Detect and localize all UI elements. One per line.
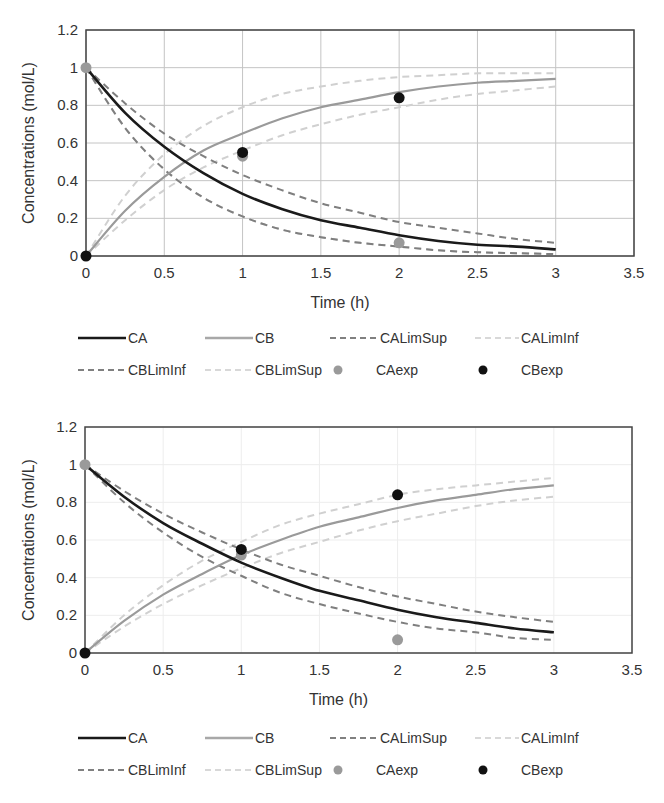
- legend-line-icon: [330, 330, 378, 346]
- chart-top-legend: CACBCALimSupCALimInfCBLimInfCBLimSupCAex…: [0, 330, 664, 400]
- x-tick-label: 1: [237, 661, 245, 678]
- x-tick-label: 0: [82, 264, 90, 281]
- x-axis-title: Time (h): [309, 691, 368, 708]
- legend-label: CALimSup: [380, 330, 447, 346]
- legend-label: CBLimInf: [128, 762, 186, 778]
- marker-cbexp: [236, 544, 247, 555]
- legend-item-caliminf: CALimInf: [475, 330, 579, 346]
- legend-label: CBexp: [521, 362, 563, 378]
- legend-item-cblimsup: CBLimSup: [205, 762, 322, 778]
- x-tick-label: 2: [393, 661, 401, 678]
- legend-label: CALimInf: [521, 730, 579, 746]
- marker-cbexp: [237, 147, 248, 158]
- y-tick-label: 1.2: [56, 418, 77, 435]
- legend-line-icon: [78, 730, 126, 746]
- marker-cbexp: [394, 92, 405, 103]
- x-tick-label: 2: [395, 264, 403, 281]
- legend-item-caexp: CAexp: [330, 362, 418, 378]
- y-tick-label: 0.8: [57, 96, 78, 113]
- legend-item-cbliminf: CBLimInf: [78, 362, 186, 378]
- x-tick-label: 0.5: [153, 661, 174, 678]
- legend-item-cbexp: CBexp: [475, 362, 563, 378]
- y-tick-label: 1: [69, 456, 77, 473]
- legend-line-icon: [330, 730, 378, 746]
- legend-line-icon: [205, 330, 253, 346]
- y-tick-label: 0.8: [56, 493, 77, 510]
- legend-item-ca: CA: [78, 330, 147, 346]
- legend-label: CAexp: [376, 362, 418, 378]
- marker-caexp: [392, 634, 403, 645]
- x-axis-title: Time (h): [311, 294, 370, 311]
- y-tick-label: 0.2: [57, 209, 78, 226]
- y-axis-title: Concentrations (mol/L): [20, 459, 37, 621]
- x-tick-label: 3.5: [622, 661, 643, 678]
- x-tick-label: 0: [81, 661, 89, 678]
- legend-label: CBLimInf: [128, 362, 186, 378]
- legend-line-icon: [205, 762, 253, 778]
- legend-item-calimsup: CALimSup: [330, 730, 447, 746]
- legend-line-icon: [205, 362, 253, 378]
- marker-cbexp: [81, 251, 92, 262]
- y-axis-title: Concentrations (mol/L): [20, 62, 37, 224]
- legend-item-cbliminf: CBLimInf: [78, 762, 186, 778]
- y-tick-label: 0.2: [56, 606, 77, 623]
- legend-label: CALimInf: [521, 330, 579, 346]
- x-tick-label: 3: [550, 661, 558, 678]
- y-tick-label: 0.6: [56, 531, 77, 548]
- legend-item-cblimsup: CBLimSup: [205, 362, 322, 378]
- legend-label: CALimSup: [380, 730, 447, 746]
- legend-line-icon: [78, 330, 126, 346]
- chart-bottom-legend: CACBCALimSupCALimInfCBLimInfCBLimSupCAex…: [0, 730, 664, 800]
- legend-label: CBexp: [521, 762, 563, 778]
- y-tick-label: 0: [70, 247, 78, 264]
- legend-label: CBLimSup: [255, 362, 322, 378]
- legend-item-caexp: CAexp: [330, 762, 418, 778]
- x-tick-label: 2.5: [465, 661, 486, 678]
- x-tick-label: 2.5: [467, 264, 488, 281]
- legend-marker-icon: [475, 762, 519, 778]
- legend-marker-icon: [330, 362, 374, 378]
- chart-top: 00.511.522.533.500.20.40.60.811.2Time (h…: [0, 0, 664, 325]
- marker-caexp: [394, 237, 405, 248]
- legend-label: CAexp: [376, 762, 418, 778]
- legend-label: CBLimSup: [255, 762, 322, 778]
- legend-line-icon: [475, 330, 519, 346]
- y-tick-label: 1: [70, 59, 78, 76]
- legend-marker-icon: [475, 362, 519, 378]
- x-tick-label: 3.5: [624, 264, 645, 281]
- legend-item-cbexp: CBexp: [475, 762, 563, 778]
- legend-item-calimsup: CALimSup: [330, 330, 447, 346]
- x-tick-label: 3: [552, 264, 560, 281]
- legend-label: CB: [255, 730, 274, 746]
- y-tick-label: 1.2: [57, 21, 78, 38]
- chart-bottom: 00.511.522.533.500.20.40.60.811.2Time (h…: [0, 397, 664, 722]
- chart-top-plot: 00.511.522.533.500.20.40.60.811.2Time (h…: [0, 0, 664, 325]
- legend-item-cb: CB: [205, 730, 274, 746]
- marker-caexp: [81, 62, 92, 73]
- marker-caexp: [80, 459, 91, 470]
- marker-cbexp: [80, 648, 91, 659]
- y-tick-label: 0.4: [56, 569, 77, 586]
- chart-bottom-plot: 00.511.522.533.500.20.40.60.811.2Time (h…: [0, 397, 664, 722]
- x-tick-label: 0.5: [154, 264, 175, 281]
- x-tick-label: 1.5: [310, 264, 331, 281]
- legend-item-cb: CB: [205, 330, 274, 346]
- legend-line-icon: [475, 730, 519, 746]
- x-tick-label: 1.5: [309, 661, 330, 678]
- y-tick-label: 0.4: [57, 172, 78, 189]
- legend-item-caliminf: CALimInf: [475, 730, 579, 746]
- marker-cbexp: [392, 489, 403, 500]
- legend-label: CA: [128, 730, 147, 746]
- legend-label: CA: [128, 330, 147, 346]
- x-tick-label: 1: [238, 264, 246, 281]
- legend-line-icon: [78, 762, 126, 778]
- legend-item-ca: CA: [78, 730, 147, 746]
- legend-marker-icon: [330, 762, 374, 778]
- y-tick-label: 0.6: [57, 134, 78, 151]
- legend-line-icon: [78, 362, 126, 378]
- legend-line-icon: [205, 730, 253, 746]
- y-tick-label: 0: [69, 644, 77, 661]
- legend-label: CB: [255, 330, 274, 346]
